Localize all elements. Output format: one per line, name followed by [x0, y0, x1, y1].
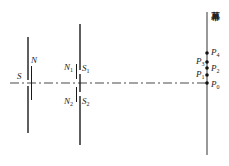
point-p2-marker [205, 66, 209, 70]
screen-label: 幕 [210, 11, 221, 22]
slit-s1-label: S1 [82, 63, 90, 74]
point-p1-label: P1 [195, 69, 205, 80]
edge-n2-label: N2 [63, 96, 73, 107]
point-p2-label: P2 [210, 63, 220, 74]
slit-s2-label: S2 [82, 96, 90, 107]
point-p1-marker [205, 73, 209, 77]
point-p0-label: P0 [210, 79, 220, 90]
double-slit-barrier [77, 24, 81, 145]
point-p3-label: P3 [195, 56, 205, 67]
single-slit-barrier [28, 37, 32, 133]
slit-s-label: S [17, 71, 22, 81]
double-slit-diagram: S N N1 S1 N2 S2 幕 P4 P3 P2 P1 P0 [0, 0, 229, 166]
point-p0-marker [205, 81, 209, 85]
edge-n1-label: N1 [63, 62, 73, 73]
edge-n-label: N [30, 55, 38, 65]
point-p4-marker [205, 51, 209, 55]
point-p4-label: P4 [210, 47, 220, 58]
point-p3-marker [205, 60, 209, 64]
